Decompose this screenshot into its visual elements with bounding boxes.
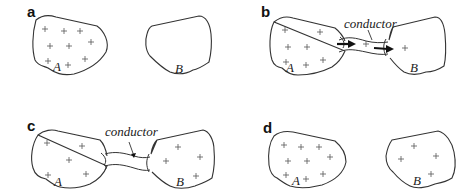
panel-label-d: d (263, 119, 272, 136)
body-a-label: A (285, 60, 294, 75)
body-b-label: B (175, 61, 183, 76)
body-a-outline (33, 16, 107, 75)
panel-b: b A conductor B (261, 3, 446, 75)
body-b-label: B (410, 60, 418, 75)
charges-d-b (398, 143, 439, 177)
body-b-label: B (176, 174, 184, 189)
body-b-label: B (413, 173, 421, 188)
body-a-label: A (53, 174, 62, 189)
conductor-label: conductor (105, 124, 159, 139)
charges-a (42, 26, 94, 68)
panel-label-b: b (261, 3, 270, 20)
panel-label-c: c (27, 117, 35, 134)
body-a-label: A (52, 59, 61, 74)
conductor-label: conductor (344, 16, 398, 31)
conductor (337, 30, 394, 56)
charge-transfer-diagram: a A B b A (0, 0, 471, 191)
body-a-outline (270, 17, 345, 75)
conductor (101, 142, 150, 172)
panel-label-a: a (27, 3, 36, 20)
charges-c (44, 140, 89, 178)
panel-a: a A B (27, 3, 211, 76)
charges-d-a (281, 142, 333, 182)
body-a-label: A (291, 173, 300, 188)
panel-d: d A B (263, 119, 455, 188)
panel-c: c A conductor B (27, 117, 214, 189)
